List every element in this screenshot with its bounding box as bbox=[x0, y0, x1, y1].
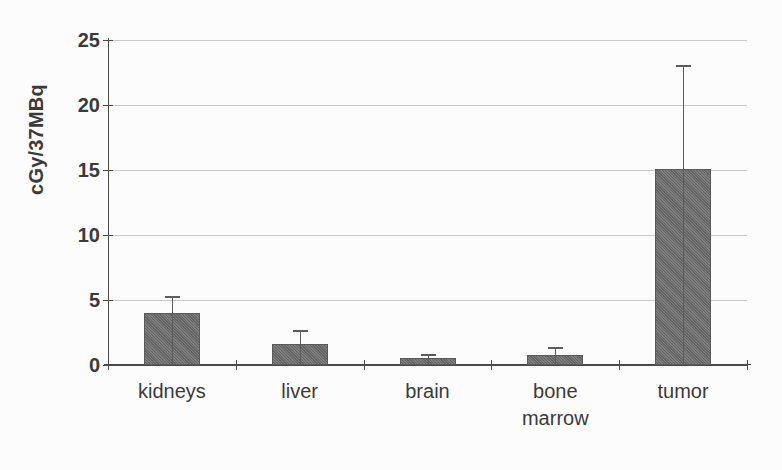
y-tick-mark-20 bbox=[103, 105, 113, 106]
y-axis-tick-labels: 0510152025 bbox=[44, 40, 100, 365]
gridline-20 bbox=[108, 105, 747, 106]
error-bar-tumor bbox=[683, 65, 684, 365]
error-bar-liver bbox=[300, 330, 301, 365]
y-tick-mark-15 bbox=[103, 170, 113, 171]
x-tick-mark-4 bbox=[619, 360, 620, 370]
x-label-line: bone bbox=[533, 380, 578, 402]
y-tick-label: 15 bbox=[78, 159, 100, 182]
y-tick-label: 0 bbox=[89, 354, 100, 377]
error-bar-bone-marrow bbox=[555, 347, 556, 365]
error-cap-brain bbox=[421, 354, 436, 356]
x-label-line: brain bbox=[405, 380, 449, 402]
y-tick-mark-10 bbox=[103, 235, 113, 236]
y-tick-label: 20 bbox=[78, 94, 100, 117]
x-tick-mark-1 bbox=[236, 360, 237, 370]
x-label-brain: brain bbox=[364, 378, 492, 405]
y-tick-mark-25 bbox=[103, 40, 113, 41]
gridline-0 bbox=[108, 365, 747, 366]
gridline-25 bbox=[108, 40, 747, 41]
error-cap-bone-marrow bbox=[548, 347, 563, 349]
error-bar-kidneys bbox=[172, 296, 173, 365]
x-axis-category-labels: kidneysliverbrainbonemarrowtumor bbox=[108, 378, 747, 458]
bar-chart-figure: cGy/37MBq 0510152025 kidneysliverbrainbo… bbox=[0, 0, 782, 470]
y-tick-label: 10 bbox=[78, 224, 100, 247]
x-label-line: marrow bbox=[491, 405, 619, 432]
y-axis-line bbox=[108, 38, 109, 367]
gridline-5 bbox=[108, 300, 747, 301]
error-cap-liver bbox=[293, 330, 308, 332]
x-tick-mark-2 bbox=[364, 360, 365, 370]
x-label-bone-marrow: bonemarrow bbox=[491, 378, 619, 432]
x-label-liver: liver bbox=[236, 378, 364, 405]
x-label-line: kidneys bbox=[138, 380, 206, 402]
x-label-line: tumor bbox=[658, 380, 709, 402]
x-label-kidneys: kidneys bbox=[108, 378, 236, 405]
gridline-10 bbox=[108, 235, 747, 236]
x-label-tumor: tumor bbox=[619, 378, 747, 405]
y-tick-mark-5 bbox=[103, 300, 113, 301]
y-tick-label: 25 bbox=[78, 29, 100, 52]
error-cap-kidneys bbox=[165, 296, 180, 298]
gridline-15 bbox=[108, 170, 747, 171]
y-tick-label: 5 bbox=[89, 289, 100, 312]
x-tick-mark-5 bbox=[747, 360, 748, 370]
x-tick-mark-0 bbox=[108, 360, 109, 370]
x-tick-mark-3 bbox=[491, 360, 492, 370]
error-cap-tumor bbox=[676, 65, 691, 67]
plot-area bbox=[108, 40, 747, 365]
x-label-line: liver bbox=[281, 380, 318, 402]
